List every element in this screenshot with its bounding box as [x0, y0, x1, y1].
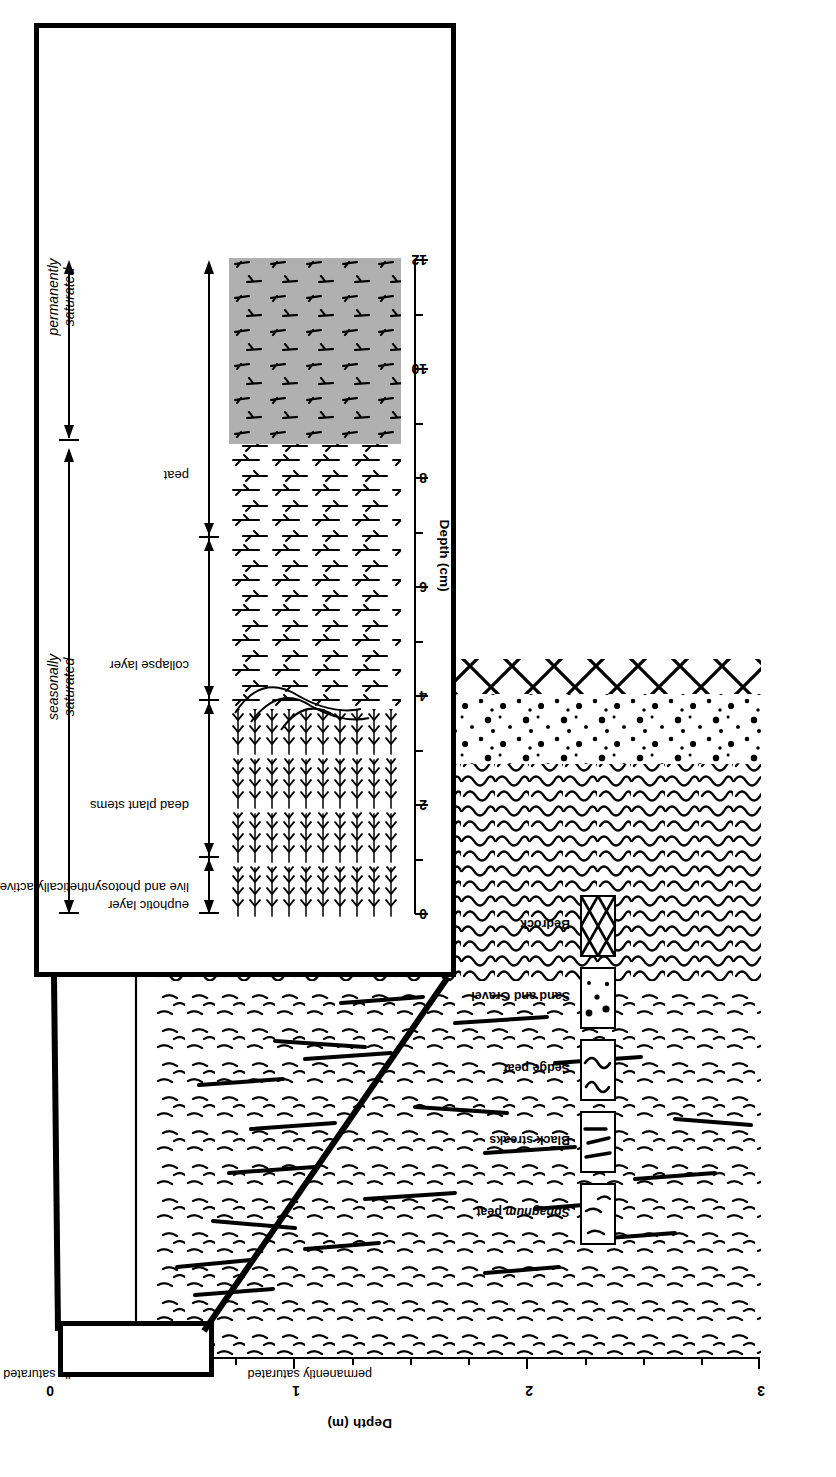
inset-zone-label-seasonally-saturated: seasonally saturated	[45, 562, 77, 812]
inset-zone-seasonally-line1: seasonally	[45, 562, 61, 812]
figure-stage: Depth (m) 0 1 2 3	[0, 0, 836, 1477]
inset-layer-label-euphotic-main: euphotic layer	[108, 897, 189, 912]
inset-layer-label-euphotic-sub-text: live and photosynthetically active plant…	[0, 879, 189, 894]
inset-tick-label-8: 8	[419, 470, 427, 486]
main-tick-label-2: 2	[525, 1383, 533, 1399]
main-tick-label-3: 3	[757, 1383, 765, 1399]
inset-tick-label-4: 4	[419, 688, 427, 704]
inset-layer-label-euphotic: euphotic layer	[108, 897, 189, 912]
legend-swatch-sphagnum	[580, 1183, 616, 1245]
legend: Sphagnum peat Black streaks Sedge peat	[524, 865, 674, 1245]
inset-tick-label-12: 12	[411, 252, 427, 268]
inset-profile-drawing	[229, 258, 401, 918]
legend-label-sphagnum-peat: Sphagnum peat	[476, 1205, 570, 1219]
inset-layer-bracket	[197, 258, 221, 918]
inset-layer-label-dead-plant-stems: dead plant stems	[90, 797, 189, 812]
inset-layer-label-euphotic-sub: live and photosynthetically active plant…	[0, 879, 189, 894]
inset-tick-label-10: 10	[411, 361, 427, 377]
legend-swatch-bedrock	[580, 895, 616, 957]
inset-tick-label-0: 0	[419, 906, 427, 922]
legend-item-sphagnum-peat: Sphagnum peat	[580, 1183, 616, 1245]
inset-layer-label-collapse-layer: collapse layer	[110, 657, 190, 672]
legend-swatch-sand-gravel	[580, 967, 616, 1029]
inset-zone-label-permanently-saturated: permanently saturated	[45, 182, 77, 412]
main-zone-label-permanently-saturated-text: permanently saturated	[248, 1367, 372, 1381]
inset-depth-axis-title: Depth (cm)	[437, 520, 452, 593]
legend-swatch-black-streaks	[580, 1111, 616, 1173]
legend-label-sphagnum-italic: Sphagnum	[505, 1205, 570, 1219]
inset-tick-label-6: 6	[419, 579, 427, 595]
main-zone-label-permanently-saturated: permanently saturated	[262, 1366, 372, 1381]
legend-item-black-streaks: Black streaks	[580, 1111, 616, 1173]
inset-zone-permanently-line2: saturated	[61, 182, 77, 412]
legend-item-bedrock: Bedrock	[580, 895, 616, 957]
inset-panel: seasonally saturated permanently saturat…	[34, 23, 456, 977]
legend-label-bedrock: Bedrock	[520, 917, 570, 931]
legend-label-black-streaks: Black streaks	[489, 1133, 570, 1147]
inset-tick-label-2: 2	[419, 797, 427, 813]
legend-item-sedge-peat: Sedge peat	[580, 1039, 616, 1101]
inset-zone-permanently-line1: permanently	[45, 182, 61, 412]
inset-zone-seasonally-line2: saturated	[61, 562, 77, 812]
legend-label-sedge-peat: Sedge peat	[503, 1061, 570, 1075]
main-depth-axis-title: Depth (m)	[327, 1416, 392, 1431]
inset-layer-label-peat: peat	[164, 467, 189, 482]
legend-item-sand-and-gravel: Sand and Gravel	[580, 967, 616, 1029]
main-tick-label-0: 0	[46, 1383, 54, 1399]
legend-swatch-sedge	[580, 1039, 616, 1101]
legend-label-sand-and-gravel: Sand and Gravel	[471, 989, 570, 1003]
main-tick-label-1: 1	[292, 1383, 300, 1399]
